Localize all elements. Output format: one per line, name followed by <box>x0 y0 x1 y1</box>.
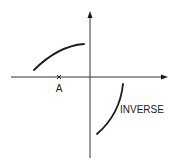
point-a-label: A <box>56 83 63 94</box>
original-curve <box>34 44 84 70</box>
diagram-canvas: A INVERSE <box>0 0 176 166</box>
inverse-function-diagram: A INVERSE <box>0 0 176 166</box>
inverse-curve-label: INVERSE <box>120 104 164 115</box>
x-axis-arrow-icon <box>161 75 168 80</box>
y-axis <box>88 11 93 158</box>
y-axis-arrow-icon <box>88 11 93 18</box>
